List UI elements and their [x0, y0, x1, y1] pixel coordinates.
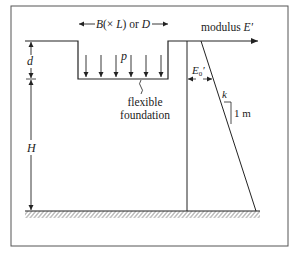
modulus-profile-line	[201, 41, 256, 211]
foundation-pointer	[140, 80, 143, 94]
figure-frame	[11, 6, 288, 246]
foundation-label-line2: foundation	[120, 109, 170, 121]
depth-label: d	[27, 54, 34, 68]
gradient-triangle	[224, 102, 231, 124]
unit-depth-label: 1 m	[234, 107, 251, 119]
ground-surface	[25, 41, 186, 79]
modulus-label: modulus E′	[201, 21, 254, 33]
width-label: B(× L) or D	[96, 18, 151, 31]
gradient-label: k	[222, 88, 228, 100]
thickness-label: H	[26, 141, 37, 155]
pressure-label: p	[120, 49, 127, 63]
surface-modulus-label: E0′	[191, 64, 205, 78]
foundation-label-line1: flexible	[127, 96, 162, 108]
foundation-diagram: B(× L) or D p flexible foundation d H mo…	[0, 0, 295, 259]
rigid-base-hatching	[25, 211, 260, 218]
